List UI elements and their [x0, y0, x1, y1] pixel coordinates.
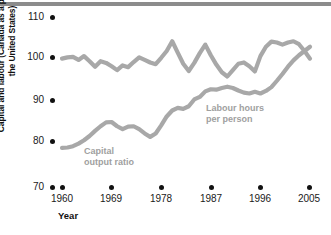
annotation-labour-hours-per-person: Labour hours per person — [206, 103, 264, 125]
annotation-capital-line2: output ratio — [84, 157, 134, 168]
chart-figure: Capital and labour (Canada as a percenta… — [0, 0, 331, 235]
plot-area — [0, 0, 331, 235]
annotation-labour-line2: per person — [206, 114, 264, 125]
annotation-labour-line1: Labour hours — [206, 103, 264, 114]
annotation-capital-line1: Capital — [84, 146, 134, 157]
series-line-labour-hours-per-person — [62, 41, 310, 76]
annotation-capital-output-ratio: Capital output ratio — [84, 146, 134, 168]
